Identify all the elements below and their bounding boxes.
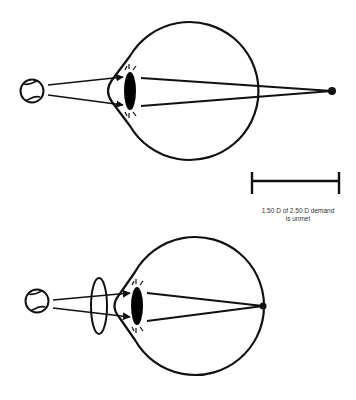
refracted-ray-upper <box>141 78 332 91</box>
baseball-icon <box>26 290 49 313</box>
scale-bar-caption: 1.50 D of 2.50 D demand is unmet <box>236 207 356 223</box>
bottom-panel <box>26 237 267 375</box>
diagram-canvas <box>0 0 356 400</box>
corrective-lens <box>91 278 107 334</box>
refracted-ray-lower <box>147 306 263 321</box>
caption-line-1: 1.50 D of 2.50 D demand <box>236 207 356 215</box>
top-panel <box>21 22 337 160</box>
focal-point <box>328 87 336 95</box>
refracted-ray-upper <box>147 293 263 306</box>
crystalline-lens <box>124 72 136 110</box>
focal-point <box>260 303 267 310</box>
refracted-ray-lower <box>141 91 332 106</box>
caption-line-2: is unmet <box>236 215 356 223</box>
scale-bar <box>252 172 339 194</box>
crystalline-lens <box>131 287 143 325</box>
baseball-icon <box>21 80 44 103</box>
